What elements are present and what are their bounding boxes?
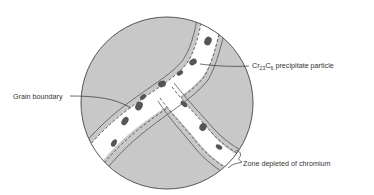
zone-bracket-tail xyxy=(228,165,232,168)
grain-boundary-label: Grain boundary xyxy=(13,92,63,101)
depleted-zone-label: Zone depleted of chromium xyxy=(243,159,331,168)
diagram-canvas: Cr23C6 precipitate particle Grain bounda… xyxy=(0,0,374,195)
precipitate-label: Cr23C6 precipitate particle xyxy=(252,61,334,71)
